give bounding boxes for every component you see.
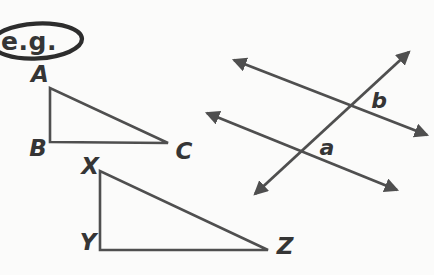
angle-label-a: a <box>320 135 335 160</box>
vertex-label-x: X <box>79 153 100 179</box>
vertex-label-z: Z <box>276 233 295 259</box>
worksheet-example-figure: e.g. A B C X Y Z a b <box>0 0 434 275</box>
geometry-diagram: e.g. A B C X Y Z a b <box>0 0 434 275</box>
vertex-label-c: C <box>176 138 193 164</box>
angle-label-b: b <box>371 88 387 113</box>
page-background <box>0 0 434 275</box>
vertex-label-y: Y <box>80 229 99 255</box>
example-tag-label: e.g. <box>1 27 57 56</box>
vertex-label-a: A <box>29 61 49 87</box>
vertex-label-b: B <box>29 135 47 161</box>
